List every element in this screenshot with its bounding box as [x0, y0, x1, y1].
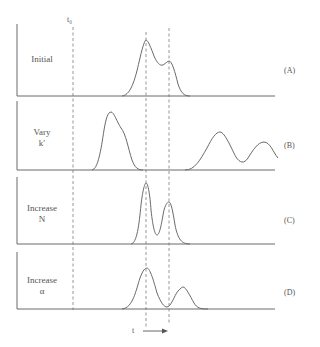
panel-d-label-line2: α	[22, 286, 62, 297]
t0-label: t₀	[67, 14, 72, 25]
panel-d-trace	[122, 268, 208, 309]
panel-a-tag: (A)	[284, 66, 295, 75]
reference-lines	[73, 27, 169, 328]
traces	[92, 40, 278, 309]
panel-b-trace-late	[185, 132, 278, 170]
panel-a-trace	[122, 40, 190, 96]
panel-b-label-line2: k′	[22, 138, 62, 149]
panel-a-label-line1: Initial	[22, 54, 62, 65]
panel-b-trace-early	[92, 112, 143, 170]
panel-c-tag: (C)	[284, 216, 295, 225]
panel-b-tag: (B)	[284, 141, 295, 150]
panel-a-label: Initial	[22, 54, 62, 65]
panel-b-label-line1: Vary	[22, 127, 62, 138]
time-arrow	[143, 329, 168, 334]
time-axis-label: t	[132, 325, 134, 336]
panel-c-label-line1: Increase	[22, 203, 62, 214]
panel-c-label: Increase N	[22, 203, 62, 225]
panel-c-trace	[131, 183, 190, 244]
panel-d-label-line1: Increase	[22, 275, 62, 286]
panel-b-label: Vary k′	[22, 127, 62, 149]
panel-c-label-line2: N	[22, 214, 62, 225]
panel-d-label: Increase α	[22, 275, 62, 297]
panel-d-tag: (D)	[284, 288, 295, 297]
